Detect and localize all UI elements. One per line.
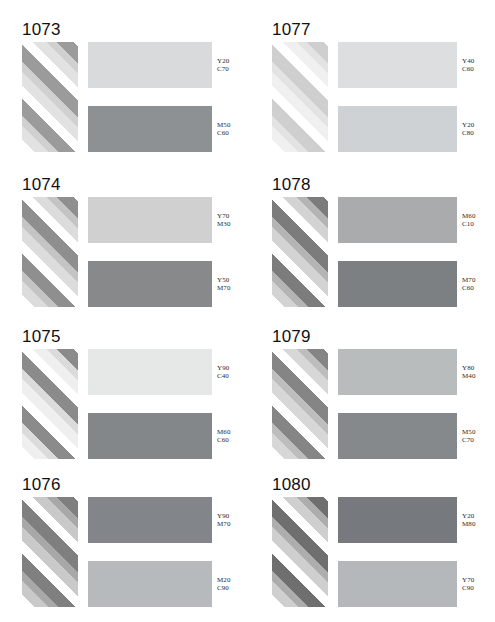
swatch-label-line1: Y90	[217, 512, 246, 521]
swatch-label-line2: C90	[462, 584, 491, 593]
panel-title: 1076	[22, 475, 246, 494]
panel-body: Y70M30Y50M70	[22, 197, 246, 307]
swatch-label-line1: Y40	[462, 57, 491, 66]
swatch-label-line2: C10	[462, 220, 491, 229]
swatch-label-bottom: Y50M70	[212, 276, 246, 293]
color-swatch-bottom	[88, 561, 212, 607]
swatch-label-bottom: M50C70	[457, 428, 491, 445]
swatch-row-top: M60C10	[338, 197, 491, 243]
swatch-label-bottom: M70C60	[457, 276, 491, 293]
diagonal-stripe-pattern	[272, 349, 328, 459]
swatch-row-top: Y40C60	[338, 42, 491, 88]
swatch-label-line2: M80	[462, 520, 491, 529]
panel-inner: 1079Y80M40M50C70	[272, 327, 491, 455]
panel-body: Y80M40M50C70	[272, 349, 491, 459]
swatch-panel-1075: 1075Y90C40M60C60	[0, 307, 250, 455]
color-swatch-bottom	[88, 261, 212, 307]
panel-body: Y20M80Y70C90	[272, 497, 491, 607]
swatch-label-line1: Y50	[217, 276, 246, 285]
swatch-label-top: Y70M30	[212, 212, 246, 229]
color-swatch-top	[88, 42, 212, 88]
swatch-column: Y80M40M50C70	[338, 349, 491, 459]
color-swatch-sheet: 1073Y20C70M50C601077Y40C60Y20C801074Y70M…	[0, 0, 495, 622]
swatch-label-line2: C90	[217, 584, 246, 593]
swatch-row-top: Y90M70	[88, 497, 246, 543]
swatch-column: Y20C70M50C60	[88, 42, 246, 152]
swatch-label-top: Y40C60	[457, 57, 491, 74]
panel-inner: 1073Y20C70M50C60	[22, 20, 246, 155]
swatch-label-line2: M70	[217, 284, 246, 293]
panel-title: 1073	[22, 20, 246, 39]
swatch-label-top: Y90C40	[212, 364, 246, 381]
swatch-row-bottom: M60C60	[88, 413, 246, 459]
swatch-column: Y20M80Y70C90	[338, 497, 491, 607]
swatch-label-top: Y80M40	[457, 364, 491, 381]
panel-body: M60C10M70C60	[272, 197, 491, 307]
color-swatch-top	[338, 497, 457, 543]
swatch-panel-1077: 1077Y40C60Y20C80	[250, 0, 495, 155]
swatch-panel-1080: 1080Y20M80Y70C90	[250, 455, 495, 622]
swatch-label-line2: C40	[217, 372, 246, 381]
panel-body: Y90C40M60C60	[22, 349, 246, 459]
diagonal-stripe-pattern	[272, 497, 328, 607]
swatch-row-bottom: M50C70	[338, 413, 491, 459]
diagonal-stripe-pattern	[22, 497, 78, 607]
swatch-label-line1: Y20	[462, 512, 491, 521]
swatch-panel-1074: 1074Y70M30Y50M70	[0, 155, 250, 307]
swatch-label-line1: Y20	[462, 121, 491, 130]
color-swatch-top	[338, 349, 457, 395]
swatch-label-line1: Y90	[217, 364, 246, 373]
panel-inner: 1075Y90C40M60C60	[22, 327, 246, 455]
swatch-label-line2: C60	[217, 436, 246, 445]
swatch-label-line1: M50	[217, 121, 246, 130]
swatch-label-line1: Y20	[217, 57, 246, 66]
color-swatch-top	[338, 197, 457, 243]
panel-inner: 1078M60C10M70C60	[272, 175, 491, 307]
panel-body: Y90M70M20C90	[22, 497, 246, 607]
swatch-panel-1073: 1073Y20C70M50C60	[0, 0, 250, 155]
swatch-label-line1: Y70	[462, 576, 491, 585]
color-swatch-top	[88, 197, 212, 243]
swatch-label-line1: M70	[462, 276, 491, 285]
panel-inner: 1077Y40C60Y20C80	[272, 20, 491, 155]
swatch-label-bottom: Y70C90	[457, 576, 491, 593]
diagonal-stripe-pattern	[22, 349, 78, 459]
swatch-column: Y40C60Y20C80	[338, 42, 491, 152]
swatch-label-line1: M50	[462, 428, 491, 437]
color-swatch-bottom	[338, 261, 457, 307]
color-swatch-bottom	[338, 106, 457, 152]
panel-title: 1075	[22, 327, 246, 346]
swatch-row-top: Y80M40	[338, 349, 491, 395]
diagonal-stripe-pattern	[272, 42, 328, 152]
panel-body: Y40C60Y20C80	[272, 42, 491, 152]
swatch-label-line2: C60	[217, 129, 246, 138]
swatch-panel-1079: 1079Y80M40M50C70	[250, 307, 495, 455]
swatch-column: Y90M70M20C90	[88, 497, 246, 607]
swatch-label-bottom: M20C90	[212, 576, 246, 593]
swatch-row-bottom: M70C60	[338, 261, 491, 307]
swatch-label-line1: M20	[217, 576, 246, 585]
panel-title: 1079	[272, 327, 491, 346]
swatch-label-line2: C70	[462, 436, 491, 445]
swatch-label-line1: Y80	[462, 364, 491, 373]
color-swatch-bottom	[338, 413, 457, 459]
panel-title: 1078	[272, 175, 491, 194]
swatch-label-line2: M70	[217, 520, 246, 529]
swatch-label-line2: C60	[462, 65, 491, 74]
swatch-label-bottom: M60C60	[212, 428, 246, 445]
color-swatch-bottom	[338, 561, 457, 607]
swatch-label-line2: C60	[462, 284, 491, 293]
swatch-label-top: Y20C70	[212, 57, 246, 74]
swatch-label-line2: M30	[217, 220, 246, 229]
swatch-row-bottom: Y70C90	[338, 561, 491, 607]
swatch-row-bottom: Y50M70	[88, 261, 246, 307]
color-swatch-top	[338, 42, 457, 88]
panel-grid: 1073Y20C70M50C601077Y40C60Y20C801074Y70M…	[0, 0, 495, 622]
color-swatch-bottom	[88, 106, 212, 152]
panel-title: 1074	[22, 175, 246, 194]
panel-inner: 1080Y20M80Y70C90	[272, 475, 491, 622]
swatch-label-top: M60C10	[457, 212, 491, 229]
swatch-column: Y70M30Y50M70	[88, 197, 246, 307]
swatch-label-bottom: M50C60	[212, 121, 246, 138]
swatch-label-line1: M60	[462, 212, 491, 221]
